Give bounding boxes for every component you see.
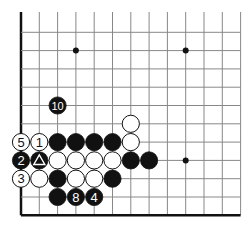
white-stone (122, 115, 139, 132)
black-stone-icon (122, 152, 139, 169)
move-number-label: 10 (51, 100, 63, 112)
white-stone-icon (31, 170, 48, 187)
black-stone: 4 (86, 188, 103, 205)
black-stone: 10 (49, 97, 66, 114)
black-stone (141, 152, 158, 169)
white-stone (86, 152, 103, 169)
move-number-label: 1 (36, 135, 43, 150)
stones-layer: 10512384 (12, 97, 157, 206)
black-stone (49, 188, 66, 205)
white-stone-icon (67, 170, 84, 187)
black-stone-icon (141, 152, 158, 169)
white-stone-icon (67, 152, 84, 169)
go-board: 10512384 (0, 0, 249, 231)
white-stone-icon (49, 152, 66, 169)
black-stone (104, 134, 121, 151)
white-stone: 3 (12, 170, 29, 187)
move-number-label: 8 (72, 190, 79, 205)
black-stone-icon (49, 134, 66, 151)
white-stone (49, 152, 66, 169)
white-stone (104, 152, 121, 169)
move-number-label: 2 (17, 153, 24, 168)
black-stone-icon (104, 134, 121, 151)
move-number-label: 5 (17, 135, 24, 150)
white-stone (31, 170, 48, 187)
black-stone (104, 170, 121, 187)
white-stone: 5 (12, 134, 29, 151)
white-stone-icon (86, 170, 103, 187)
black-stone (122, 152, 139, 169)
black-stone: 8 (67, 188, 84, 205)
black-stone (86, 134, 103, 151)
white-stone (122, 134, 139, 151)
black-stone (67, 134, 84, 151)
white-stone (86, 170, 103, 187)
star-point-icon (183, 157, 189, 163)
black-stone-icon (67, 134, 84, 151)
white-stone: 1 (31, 134, 48, 151)
star-point-icon (73, 48, 79, 54)
move-number-label: 4 (91, 190, 98, 205)
black-stone-icon (49, 170, 66, 187)
white-stone (67, 170, 84, 187)
black-stone (49, 170, 66, 187)
white-stone-icon (86, 152, 103, 169)
black-stone-icon (104, 170, 121, 187)
white-stone-icon (122, 134, 139, 151)
move-number-label: 3 (17, 171, 24, 186)
black-stone: 2 (12, 152, 29, 169)
white-stone (67, 152, 84, 169)
white-stone-icon (104, 152, 121, 169)
white-stone-icon (122, 115, 139, 132)
black-stone-icon (86, 134, 103, 151)
black-stone-icon (49, 188, 66, 205)
black-stone (49, 134, 66, 151)
black-stone (31, 152, 48, 169)
star-point-icon (183, 48, 189, 54)
